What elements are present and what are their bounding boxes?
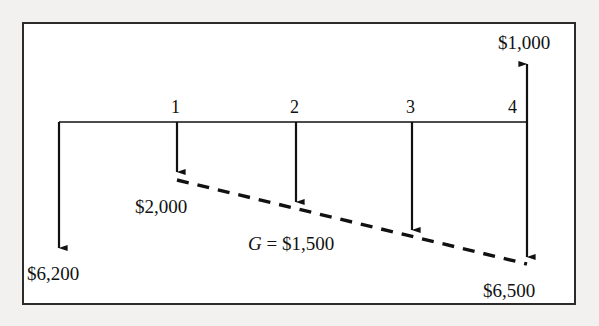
gradient-symbol: G	[248, 233, 262, 254]
cash-flow-figure: 1 2 3 4 $1,000 $2,000 $6,200 $6,500 G = …	[0, 0, 599, 326]
period-label-1: 1	[171, 98, 180, 116]
label-period-4-inflow: $1,000	[498, 33, 550, 52]
gradient-equals: =	[266, 233, 277, 254]
period-label-4: 4	[508, 98, 517, 116]
label-period-4-outflow: $6,500	[483, 281, 535, 300]
gradient-amount: $1,500	[282, 233, 334, 254]
label-period-1-outflow: $2,000	[135, 197, 187, 216]
period-label-3: 3	[406, 98, 415, 116]
gradient-label: G = $1,500	[248, 234, 334, 253]
gradient-dashed-line	[177, 180, 527, 264]
label-initial-outflow: $6,200	[27, 264, 79, 283]
period-label-2: 2	[290, 98, 299, 116]
